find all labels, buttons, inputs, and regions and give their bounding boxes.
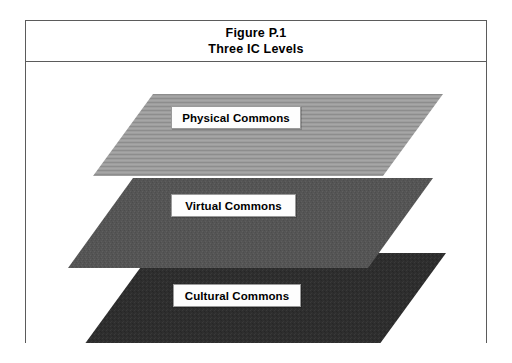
cultural-commons-label: Cultural Commons xyxy=(173,284,301,307)
figure-title-line-1: Figure P.1 xyxy=(226,25,287,41)
diagram-canvas: Physical Commons Virtual Commons Cultura… xyxy=(26,62,486,343)
figure-title-band: Figure P.1 Three IC Levels xyxy=(26,21,486,62)
physical-commons-label: Physical Commons xyxy=(171,106,301,129)
figure-title-line-2: Three IC Levels xyxy=(208,41,303,57)
virtual-commons-label: Virtual Commons xyxy=(171,194,296,217)
virtual-commons-shape[interactable] xyxy=(68,178,433,268)
figure-frame: Figure P.1 Three IC Levels xyxy=(25,20,487,343)
